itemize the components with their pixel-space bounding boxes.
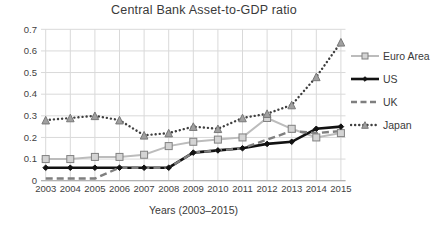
legend-swatch-uk [350, 96, 380, 108]
legend-swatch-euro-area [350, 50, 380, 62]
y-tick-label: 0.7 [24, 24, 37, 35]
legend-item-euro-area: Euro Area [350, 44, 430, 67]
legend-swatch-us [350, 73, 380, 85]
x-tick-label: 2003 [35, 183, 56, 194]
legend-item-us: US [350, 67, 430, 90]
legend-item-uk: UK [350, 90, 430, 113]
x-tick-label: 2013 [281, 183, 302, 194]
y-tick-label: 0.2 [24, 132, 37, 143]
legend-item-japan: Japan [350, 113, 430, 136]
x-tick-label: 2007 [134, 183, 155, 194]
x-tick-label: 2012 [257, 183, 278, 194]
x-tick-label: 2005 [84, 183, 105, 194]
x-tick-label: 2011 [232, 183, 252, 194]
x-axis-title: Years (2003–2015) [41, 204, 346, 216]
legend-swatch-japan [350, 119, 380, 131]
x-tick-label: 2006 [109, 183, 130, 194]
x-tick-label: 2004 [60, 183, 81, 194]
legend-label-euro-area: Euro Area [383, 50, 430, 62]
y-tick-label: 0.6 [24, 45, 37, 56]
x-tick-label: 2010 [207, 183, 228, 194]
y-tick-label: 0.3 [24, 110, 37, 121]
legend-label-japan: Japan [383, 119, 412, 131]
y-tick-label: 0.4 [24, 88, 37, 99]
legend-label-uk: UK [383, 96, 398, 108]
y-tick-label: 0.5 [24, 67, 37, 78]
x-tick-label: 2008 [158, 183, 179, 194]
legend: Euro Area US UK Japan [350, 44, 430, 136]
y-tick-label: 0.1 [24, 153, 37, 164]
x-tick-label: 2014 [306, 183, 327, 194]
x-tick-label: 2015 [330, 183, 351, 194]
x-tick-label: 2009 [183, 183, 204, 194]
legend-label-us: US [383, 73, 398, 85]
